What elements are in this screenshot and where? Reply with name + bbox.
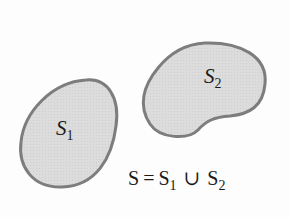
equation-term1-sub: 1 <box>170 178 177 193</box>
s1-label-main: S <box>56 116 67 140</box>
equation-term2-sub: 2 <box>218 178 225 193</box>
equation-term1: S <box>158 167 169 189</box>
equation-lhs: S <box>128 167 139 189</box>
s2-label-main: S <box>204 64 215 88</box>
equation-equals: = <box>143 167 154 189</box>
region-s2-label: S2 <box>204 64 222 92</box>
region-s1-label: S1 <box>56 116 74 144</box>
union-operator: ∪ <box>184 167 201 189</box>
set-union-diagram: S1 S2 S = S1 ∪ S2 <box>0 0 289 217</box>
s2-label-sub: 2 <box>215 76 222 91</box>
equation-term2: S <box>207 167 218 189</box>
union-equation: S = S1 ∪ S2 <box>128 166 225 194</box>
s1-label-sub: 1 <box>67 128 74 143</box>
